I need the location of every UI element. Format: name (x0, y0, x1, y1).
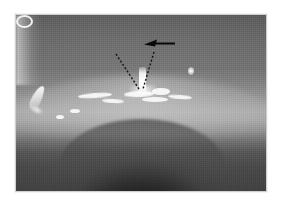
glint-ring (16, 15, 33, 28)
glint-dot-right (188, 67, 194, 75)
clinical-photograph (16, 15, 266, 191)
glint-band-d (142, 97, 168, 102)
midline-structure-icon (139, 67, 146, 92)
figure-root (0, 0, 282, 206)
glint-band-h (56, 115, 64, 119)
photo-canvas (16, 15, 266, 191)
figure-caption (16, 194, 266, 204)
vignette-layer (16, 15, 266, 191)
glint-band-g (70, 109, 80, 113)
